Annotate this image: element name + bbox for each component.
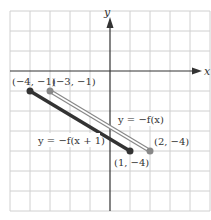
x-axis-label: x	[204, 65, 211, 78]
label-point-2-neg4: (2, −4)	[154, 136, 189, 147]
y-axis-label: y	[103, 6, 111, 19]
x-axis-arrow-icon	[192, 68, 202, 75]
point-2-neg4	[147, 148, 154, 155]
point-neg4-neg1	[27, 88, 34, 95]
label-point-neg4-neg1: (−4, −1)	[12, 76, 56, 87]
label-point-neg3-neg1: (−3, −1)	[52, 76, 96, 87]
point-neg3-neg1	[47, 88, 54, 95]
function-labels: y = −f(x) y = −f(x + 1)	[36, 112, 164, 147]
coordinate-graph: x y (−4, −1) (−3, −1) (1, −4) (2, −4) y …	[0, 0, 211, 220]
label-neg-f-x-plus-1: y = −f(x + 1)	[37, 135, 105, 146]
point-1-neg4	[127, 148, 134, 155]
label-point-1-neg4: (1, −4)	[114, 157, 149, 168]
label-neg-f-x: y = −f(x)	[117, 114, 164, 125]
